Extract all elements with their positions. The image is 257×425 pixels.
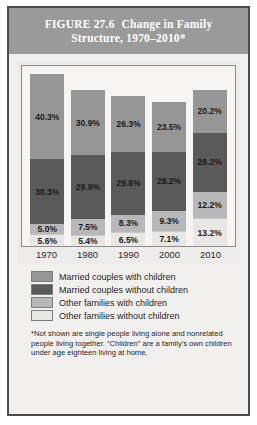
bar-1970: 40.3%30.3%5.0%5.6% bbox=[30, 74, 64, 246]
segment-value-label: 28.2% bbox=[157, 176, 181, 186]
bar-segment: 30.9% bbox=[71, 90, 105, 155]
bar-segment: 5.0% bbox=[30, 224, 64, 235]
segment-value-label: 20.2% bbox=[198, 106, 222, 116]
legend-item-label: Other families without children bbox=[59, 311, 180, 321]
legend-item-label: Married couples without children bbox=[59, 285, 188, 295]
segment-value-label: 29.8% bbox=[116, 178, 140, 188]
plot-box: 40.3%30.3%5.0%5.6%30.9%29.9%7.5%5.4%26.3… bbox=[21, 65, 236, 247]
segment-value-label: 5.6% bbox=[38, 236, 57, 246]
segment-value-label: 30.9% bbox=[76, 118, 100, 128]
legend-swatch-icon bbox=[31, 310, 53, 321]
x-axis-tick-2000: 2000 bbox=[153, 249, 187, 260]
bar-segment: 13.2% bbox=[193, 218, 227, 246]
legend-swatch-icon bbox=[31, 284, 53, 295]
segment-value-label: 29.9% bbox=[76, 182, 100, 192]
segment-value-label: 13.2% bbox=[198, 228, 222, 238]
segment-value-label: 28.2% bbox=[198, 157, 222, 167]
chart-legend: Married couples with childrenMarried cou… bbox=[31, 271, 240, 321]
bar-segment: 40.3% bbox=[30, 74, 64, 159]
segment-value-label: 30.3% bbox=[35, 187, 59, 197]
bar-1980: 30.9%29.9%7.5%5.4% bbox=[71, 90, 105, 246]
legend-item: Married couples without children bbox=[31, 284, 240, 295]
figure-footnote: *Not shown are single people living alon… bbox=[31, 329, 238, 358]
x-axis-tick-2010: 2010 bbox=[194, 249, 228, 260]
segment-value-label: 26.3% bbox=[116, 119, 140, 129]
segment-value-label: 8.3% bbox=[119, 218, 138, 228]
segment-value-label: 6.5% bbox=[119, 235, 138, 245]
bar-segment: 8.3% bbox=[111, 215, 145, 233]
segment-value-label: 7.1% bbox=[159, 234, 178, 244]
segment-value-label: 7.5% bbox=[78, 222, 97, 232]
legend-item: Other families without children bbox=[31, 310, 240, 321]
segment-value-label: 5.4% bbox=[78, 236, 97, 246]
bar-segment: 26.3% bbox=[111, 96, 145, 152]
x-axis-tick-1990: 1990 bbox=[112, 249, 146, 260]
chart-area: 40.3%30.3%5.0%5.6%30.9%29.9%7.5%5.4%26.3… bbox=[17, 61, 240, 264]
bar-segment: 23.5% bbox=[152, 102, 186, 152]
bar-segment: 9.3% bbox=[152, 211, 186, 231]
stacked-bar-group: 40.3%30.3%5.0%5.6%30.9%29.9%7.5%5.4%26.3… bbox=[22, 66, 235, 246]
segment-value-label: 12.2% bbox=[198, 200, 222, 210]
segment-value-label: 5.0% bbox=[38, 224, 57, 234]
bar-1990: 26.3%29.8%8.3%6.5% bbox=[111, 96, 145, 246]
bar-segment: 6.5% bbox=[111, 232, 145, 246]
bar-segment: 7.5% bbox=[71, 219, 105, 235]
bar-2010: 20.2%28.2%12.2%13.2% bbox=[193, 90, 227, 246]
x-axis-tick-1970: 1970 bbox=[30, 249, 64, 260]
x-axis-tick-1980: 1980 bbox=[71, 249, 105, 260]
segment-value-label: 9.3% bbox=[159, 216, 178, 226]
bar-segment: 28.2% bbox=[193, 133, 227, 193]
bar-segment: 7.1% bbox=[152, 231, 186, 246]
legend-item: Other families with children bbox=[31, 297, 240, 308]
bar-2000: 23.5%28.2%9.3%7.1% bbox=[152, 102, 186, 246]
x-axis-labels: 19701980199020002010 bbox=[21, 247, 236, 260]
bar-segment: 29.9% bbox=[71, 155, 105, 218]
legend-item-label: Other families with children bbox=[59, 298, 167, 308]
bar-segment: 20.2% bbox=[193, 90, 227, 133]
bar-segment: 5.4% bbox=[71, 235, 105, 246]
legend-item: Married couples with children bbox=[31, 271, 240, 282]
segment-value-label: 40.3% bbox=[35, 112, 59, 122]
bar-segment: 5.6% bbox=[30, 234, 64, 246]
figure-number: FIGURE 27.6 bbox=[45, 18, 115, 30]
legend-item-label: Married couples with children bbox=[59, 272, 176, 282]
segment-value-label: 23.5% bbox=[157, 122, 181, 132]
legend-swatch-icon bbox=[31, 271, 53, 282]
bar-segment: 29.8% bbox=[111, 152, 145, 215]
legend-swatch-icon bbox=[31, 297, 53, 308]
bar-segment: 28.2% bbox=[152, 152, 186, 212]
figure-title-band: FIGURE 27.6Change in Family Structure, 1… bbox=[9, 8, 248, 54]
bar-segment: 30.3% bbox=[30, 159, 64, 223]
figure-container: FIGURE 27.6Change in Family Structure, 1… bbox=[7, 6, 250, 416]
bar-segment: 12.2% bbox=[193, 192, 227, 218]
